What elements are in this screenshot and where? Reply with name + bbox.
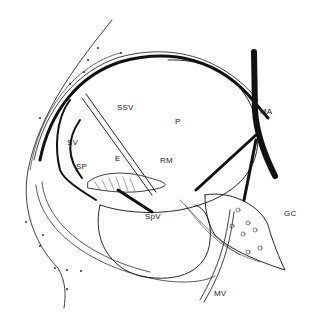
anatomical-diagram	[0, 0, 314, 323]
nerve-fibers	[180, 200, 260, 262]
label-e: E	[115, 155, 121, 163]
spv-rod	[118, 190, 152, 212]
label-rm: RM	[160, 157, 173, 165]
lower-arc-2	[42, 182, 150, 272]
ganglion-cells	[230, 208, 262, 254]
label-sv: SV	[67, 139, 78, 147]
ma-branch-2	[244, 140, 256, 200]
vessel-arc-outer2	[30, 53, 120, 170]
label-ssv: SSV	[117, 104, 134, 112]
ganglion-gc	[205, 194, 285, 270]
outer-wall-curve	[26, 20, 112, 308]
lower-arc-1	[36, 185, 215, 282]
sv-vessel	[57, 100, 96, 200]
label-gc: GC	[284, 210, 296, 218]
label-sp: SP	[76, 163, 87, 171]
label-ma: MA	[260, 108, 272, 116]
label-p: P	[175, 118, 181, 126]
label-spv: SpV	[145, 213, 161, 221]
ssv-line	[82, 98, 152, 195]
label-mv: MV	[214, 290, 226, 298]
hatching	[95, 177, 135, 191]
